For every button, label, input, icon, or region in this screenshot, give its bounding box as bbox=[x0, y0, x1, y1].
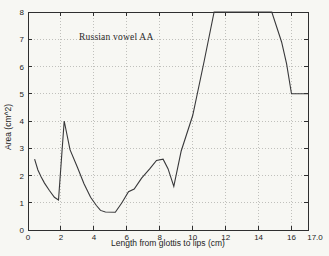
x-axis-label: Length from glottis to lips (cm) bbox=[28, 238, 308, 248]
y-tick-label: 6 bbox=[20, 63, 25, 72]
y-tick-label: 1 bbox=[20, 199, 25, 208]
y-axis-label: Area (cm^2) bbox=[3, 104, 13, 150]
y-tick-label: 8 bbox=[20, 8, 25, 17]
chart-title: Russian vowel AA bbox=[79, 32, 153, 42]
y-tick-label: 0 bbox=[20, 226, 25, 235]
y-tick-label: 7 bbox=[20, 35, 25, 44]
x-axis-end-label: 17.0 bbox=[307, 233, 323, 242]
y-tick-label: 5 bbox=[20, 90, 25, 99]
y-tick-label: 4 bbox=[20, 117, 25, 126]
plot-svg: 024681012141617.0012345678 bbox=[0, 0, 329, 256]
data-line-area-function bbox=[35, 12, 308, 212]
y-tick-label: 2 bbox=[20, 172, 25, 181]
chart-figure: 024681012141617.0012345678 Russian vowel… bbox=[0, 0, 329, 256]
y-tick-label: 3 bbox=[20, 144, 25, 153]
